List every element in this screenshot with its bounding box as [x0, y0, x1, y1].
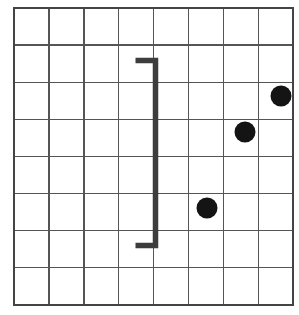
dot-top-right	[271, 86, 292, 107]
dot-middle	[235, 122, 256, 143]
dot-lower	[197, 198, 218, 219]
figure-canvas	[0, 0, 299, 315]
grid-diagram	[0, 0, 299, 315]
